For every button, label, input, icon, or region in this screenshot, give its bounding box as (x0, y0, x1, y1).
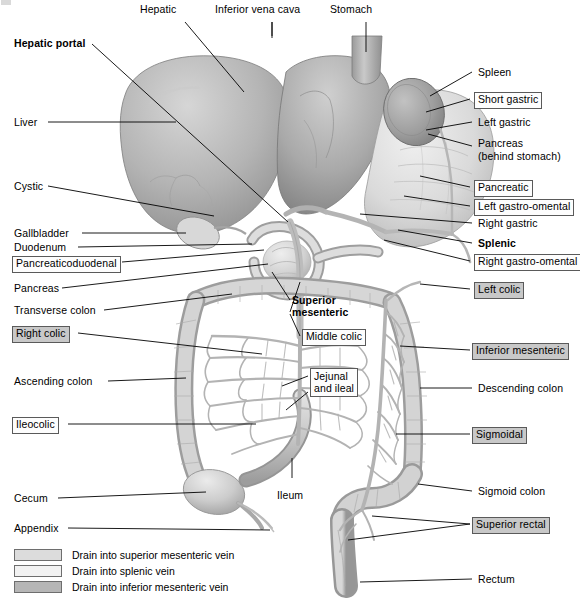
label-appendix: Appendix (14, 523, 59, 535)
label-sigmoidal: Sigmoidal (472, 427, 527, 444)
label-transverse-colon: Transverse colon (14, 305, 96, 317)
label-gallbladder: Gallbladder (14, 228, 69, 240)
label-hepatic: Hepatic (140, 4, 176, 16)
label-jejunal-line1: Jejunal (314, 370, 348, 382)
label-left-colic: Left colic (474, 282, 524, 299)
label-superior-rectal: Superior rectal (472, 517, 550, 534)
leader-superior-rectal-a (372, 516, 470, 524)
label-duodenum: Duodenum (14, 242, 66, 254)
label-liver: Liver (14, 117, 37, 129)
legend-label-superior-mesenteric-vein: Drain into superior mesenteric vein (72, 549, 234, 561)
label-short-gastric: Short gastric (474, 92, 542, 109)
label-superior-mesenteric-line2: mesenteric (292, 307, 348, 319)
label-pancreatic: Pancreatic (474, 180, 533, 197)
label-superior-mesenteric-line1: Superior (292, 295, 336, 307)
leader-superior-rectal-b (348, 524, 470, 540)
label-pancreas-left: Pancreas (14, 283, 59, 295)
label-left-gastric: Left gastric (478, 117, 531, 129)
label-inferior-mesenteric: Inferior mesenteric (472, 343, 569, 360)
legend-label-splenic-vein: Drain into splenic vein (72, 565, 175, 577)
label-behind-stomach: (behind stomach) (478, 151, 561, 163)
label-sigmoid-colon: Sigmoid colon (478, 486, 545, 498)
legend-swatch-splenic-vein (14, 565, 62, 577)
label-splenic: Splenic (478, 238, 516, 250)
figure-canvas: Hepatic Inferior vena cava Stomach Hepat… (0, 0, 580, 603)
label-jejunal-and-ileal: Jejunaland ileal (310, 368, 358, 397)
label-hepatic-portal: Hepatic portal (14, 38, 85, 50)
portal-venous-system-illustration (0, 0, 580, 603)
leader-pancreaticoduodenal (122, 250, 264, 262)
label-spleen: Spleen (478, 67, 511, 79)
leader-cecum (58, 492, 206, 498)
sigmoid-colon-organ (342, 474, 412, 520)
leader-duodenum (78, 244, 252, 247)
label-left-gastro-omental: Left gastro-omental (474, 199, 574, 216)
label-pancreas-right: Pancreas (478, 138, 523, 150)
label-right-gastro-omental: Right gastro-omental (474, 254, 580, 271)
label-ileocolic: Ileocolic (12, 417, 59, 434)
label-right-colic: Right colic (12, 326, 70, 343)
leader-appendix (68, 528, 270, 530)
label-jejunal-line2: and ileal (314, 382, 354, 394)
leader-sigmoid-colon (418, 484, 472, 491)
label-cystic: Cystic (14, 181, 43, 193)
legend: Drain into superior mesenteric vein Drai… (14, 547, 234, 595)
label-cecum: Cecum (14, 493, 48, 505)
leader-left-colic (420, 284, 470, 289)
legend-row-splenic-vein: Drain into splenic vein (14, 563, 234, 579)
label-rectum: Rectum (478, 574, 515, 586)
leader-ascending-colon (108, 378, 186, 381)
label-stomach: Stomach (330, 4, 372, 16)
label-inferior-vena-cava: Inferior vena cava (215, 4, 300, 16)
legend-swatch-inferior-mesenteric-vein (14, 581, 62, 593)
label-descending-colon: Descending colon (478, 383, 563, 395)
leader-jejunal-a (282, 376, 308, 386)
inferior-vena-cava-vessel (352, 36, 382, 84)
liver-organ (120, 56, 288, 234)
legend-label-inferior-mesenteric-vein: Drain into inferior mesenteric vein (72, 581, 228, 593)
ascending-colon-organ (174, 300, 201, 480)
ileum-organ (246, 396, 304, 480)
legend-row-inferior-mesenteric-vein: Drain into inferior mesenteric vein (14, 579, 234, 595)
label-ascending-colon: Ascending colon (14, 376, 93, 388)
legend-row-superior-mesenteric-vein: Drain into superior mesenteric vein (14, 547, 234, 563)
legend-swatch-superior-mesenteric-vein (14, 549, 62, 561)
label-ileum: Ileum (277, 490, 303, 502)
leader-rectum (360, 579, 472, 582)
label-pancreaticoduodenal: Pancreaticoduodenal (12, 256, 121, 273)
label-middle-colic: Middle colic (302, 329, 366, 346)
label-right-gastric: Right gastric (478, 218, 538, 230)
